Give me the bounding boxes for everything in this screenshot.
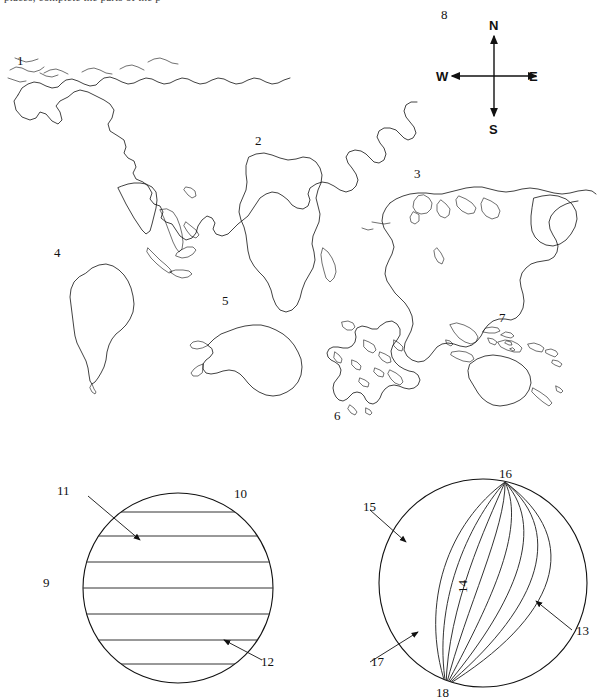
map-label-4: 4 — [54, 246, 61, 259]
compass-south-label: S — [489, 123, 498, 136]
continent-europe — [327, 321, 420, 415]
leader-line-11 — [88, 496, 140, 540]
globe-label-10: 10 — [234, 487, 247, 500]
globe-label-14: 14 — [456, 580, 469, 593]
globe-label-12: 12 — [261, 655, 274, 668]
globe-label-16: 16 — [499, 467, 512, 480]
continent-australia-oceania — [446, 338, 563, 406]
compass-east-label: E — [529, 70, 538, 83]
continent-north-america — [362, 187, 596, 362]
map-label-2: 2 — [255, 134, 262, 147]
continent-asia — [8, 58, 417, 278]
latitude-lines — [83, 512, 273, 664]
leader-line-15 — [370, 510, 406, 542]
globe-label-18: 18 — [436, 686, 449, 699]
longitude-globe-circle — [379, 479, 587, 687]
globe-label-17: 17 — [371, 655, 384, 668]
map-label-5: 5 — [222, 294, 229, 307]
leader-line-13 — [536, 601, 572, 630]
globe-label-9: 9 — [43, 576, 50, 589]
globe-label-15: 15 — [363, 500, 376, 513]
map-label-3: 3 — [414, 167, 421, 180]
map-label-6: 6 — [334, 409, 341, 422]
compass-west-label: W — [436, 70, 448, 83]
globe-label-11: 11 — [57, 484, 70, 497]
worksheet-page: places, complete the parts of the p — [0, 0, 604, 700]
continent-antarctica — [190, 325, 302, 396]
map-label-1: 1 — [17, 54, 24, 67]
meridian-lines — [436, 482, 551, 686]
map-label-7: 7 — [499, 311, 506, 324]
compass-north-label: N — [489, 19, 498, 32]
globe-label-13: 13 — [576, 624, 589, 637]
compass-rose-svg — [438, 14, 558, 144]
continent-africa — [239, 153, 336, 312]
continent-south-america — [70, 264, 134, 394]
map-label-8: 8 — [441, 8, 448, 21]
